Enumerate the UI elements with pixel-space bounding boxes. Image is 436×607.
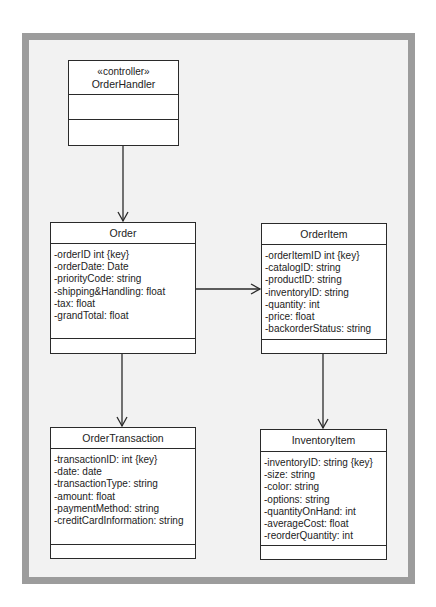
class-attributes: -orderItemID int {key} -catalogID: strin… bbox=[262, 245, 386, 340]
class-operations bbox=[261, 546, 386, 560]
attribute: -date: date bbox=[54, 466, 195, 478]
attribute: -price: float bbox=[265, 311, 386, 323]
class-header: InventoryItem bbox=[261, 430, 386, 452]
attribute: -size: string bbox=[264, 469, 386, 481]
attribute: -orderItemID int {key} bbox=[265, 250, 386, 262]
attribute: -averageCost: float bbox=[264, 518, 386, 530]
class-header: «controller» OrderHandler bbox=[69, 61, 178, 95]
attribute: -reorderQuantity: int bbox=[264, 530, 386, 542]
class-header: Order bbox=[51, 223, 195, 244]
class-name: InventoryItem bbox=[292, 434, 356, 447]
attribute: -tax: float bbox=[54, 298, 195, 310]
class-operations bbox=[69, 120, 178, 145]
attribute: -creditCardInformation: string bbox=[54, 515, 195, 527]
class-attributes: -transactionID: int {key} -date: date -t… bbox=[51, 449, 195, 545]
class-order-transaction[interactable]: OrderTransaction -transactionID: int {ke… bbox=[50, 427, 196, 559]
attribute: -backorderStatus: string bbox=[265, 323, 386, 335]
class-name: OrderItem bbox=[300, 228, 347, 241]
attribute: -options: string bbox=[264, 494, 386, 506]
attribute: -paymentMethod: string bbox=[54, 503, 195, 515]
attribute: -quantityOnHand: int bbox=[264, 506, 386, 518]
class-header: OrderTransaction bbox=[51, 428, 195, 449]
attribute: -priorityCode: string bbox=[54, 273, 195, 285]
attribute: -color: string bbox=[264, 481, 386, 493]
class-name: OrderHandler bbox=[92, 78, 156, 91]
class-order[interactable]: Order -orderID int {key} -orderDate: Dat… bbox=[50, 222, 196, 354]
class-inventory-item[interactable]: InventoryItem -inventoryID: string {key}… bbox=[260, 429, 387, 560]
attribute: -orderDate: Date bbox=[54, 261, 195, 273]
attribute: -inventoryID: string {key} bbox=[264, 457, 386, 469]
class-order-item[interactable]: OrderItem -orderItemID int {key} -catalo… bbox=[261, 223, 387, 354]
class-attributes bbox=[69, 95, 178, 120]
attribute: -inventoryID: string bbox=[265, 287, 386, 299]
class-attributes: -orderID int {key} -orderDate: Date -pri… bbox=[51, 244, 195, 339]
class-order-handler[interactable]: «controller» OrderHandler bbox=[68, 60, 179, 146]
class-operations bbox=[262, 340, 386, 354]
attribute: -transactionType: string bbox=[54, 478, 195, 490]
attribute: -grandTotal: float bbox=[54, 310, 195, 322]
class-header: OrderItem bbox=[262, 224, 386, 245]
class-name: Order bbox=[110, 227, 137, 240]
class-name: OrderTransaction bbox=[82, 432, 163, 445]
class-stereotype: «controller» bbox=[97, 65, 149, 78]
class-operations bbox=[51, 545, 195, 559]
attribute: -transactionID: int {key} bbox=[54, 454, 195, 466]
attribute: -orderID int {key} bbox=[54, 249, 195, 261]
attribute: -amount: float bbox=[54, 491, 195, 503]
attribute: -quantity: int bbox=[265, 299, 386, 311]
class-attributes: -inventoryID: string {key} -size: string… bbox=[261, 452, 386, 546]
attribute: -productID: string bbox=[265, 274, 386, 286]
attribute: -shipping&Handling: float bbox=[54, 286, 195, 298]
class-operations bbox=[51, 339, 195, 353]
attribute: -catalogID: string bbox=[265, 262, 386, 274]
